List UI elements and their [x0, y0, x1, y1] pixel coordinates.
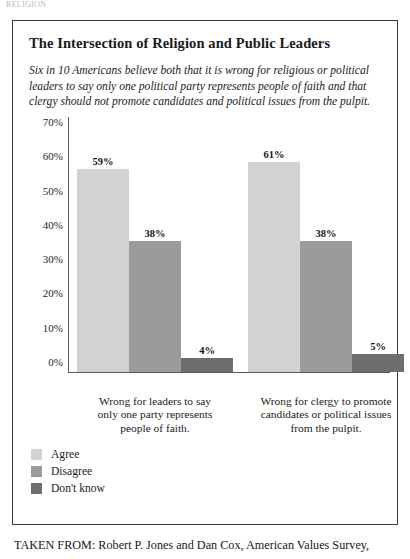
- running-header: RELIGION: [6, 0, 126, 10]
- y-axis-tick-label: 40%: [43, 219, 63, 230]
- figure-subtitle: Six in 10 Americans believe both that it…: [29, 63, 385, 110]
- x-axis-group-label-line: from the pulpit.: [232, 422, 410, 435]
- x-axis-group-label-line: only one party represents: [61, 408, 249, 421]
- bar-value-label: 59%: [77, 156, 129, 167]
- bar-value-label: 61%: [248, 149, 300, 160]
- legend-swatch-icon: [31, 466, 42, 477]
- x-axis-group-label-line: candidates or political issues: [232, 408, 410, 421]
- y-axis-tick-label: 70%: [43, 117, 63, 128]
- x-axis-group-label-line: Wrong for leaders to say: [61, 395, 249, 408]
- figure-title: The Intersection of Religion and Public …: [29, 35, 383, 52]
- bar-chart: 70%60%50%40%30%20%10%0%59%38%4%Wrong for…: [15, 117, 397, 417]
- y-axis-tick-label: 30%: [43, 254, 63, 265]
- bar-value-label: 38%: [300, 228, 352, 239]
- y-axis-tick-label: 60%: [43, 151, 63, 162]
- x-axis-line: [68, 372, 390, 373]
- legend-swatch-icon: [31, 483, 42, 494]
- bar-value-label: 38%: [129, 228, 181, 239]
- legend-item-agree[interactable]: Agree: [31, 446, 231, 463]
- x-axis-group-label-2: Wrong for clergy to promotecandidates or…: [232, 395, 410, 435]
- bar-value-label: 4%: [181, 345, 233, 356]
- source-caption: TAKEN FROM: Robert P. Jones and Dan Cox,…: [14, 538, 406, 553]
- legend-label: Don't know: [51, 483, 105, 495]
- chart-legend: AgreeDisagreeDon't know: [31, 446, 231, 497]
- plot-area: 70%60%50%40%30%20%10%0%59%38%4%Wrong for…: [68, 133, 390, 373]
- bar-disagree-group-2: 38%: [300, 241, 352, 371]
- y-axis-tick-label: 0%: [48, 357, 63, 368]
- legend-label: Agree: [51, 449, 79, 461]
- y-axis-tick-label: 20%: [43, 288, 63, 299]
- figure-box: The Intersection of Religion and Public …: [12, 20, 398, 525]
- bar-don-t-know-group-2: 5%: [352, 354, 404, 371]
- bar-agree-group-1: 59%: [77, 169, 129, 371]
- bar-disagree-group-1: 38%: [129, 241, 181, 371]
- y-axis-tick-label: 10%: [43, 322, 63, 333]
- legend-item-disagree[interactable]: Disagree: [31, 463, 231, 480]
- legend-item-don-t-know[interactable]: Don't know: [31, 480, 231, 497]
- bar-value-label: 5%: [352, 341, 404, 352]
- legend-label: Disagree: [51, 466, 92, 478]
- x-axis-group-label-line: people of faith.: [61, 422, 249, 435]
- legend-swatch-icon: [31, 449, 42, 460]
- x-axis-group-label-1: Wrong for leaders to sayonly one party r…: [61, 395, 249, 435]
- bar-agree-group-2: 61%: [248, 162, 300, 371]
- bar-don-t-know-group-1: 4%: [181, 358, 233, 372]
- y-axis-tick-label: 50%: [43, 185, 63, 196]
- y-axis-line: [68, 117, 69, 373]
- x-axis-group-label-line: Wrong for clergy to promote: [232, 395, 410, 408]
